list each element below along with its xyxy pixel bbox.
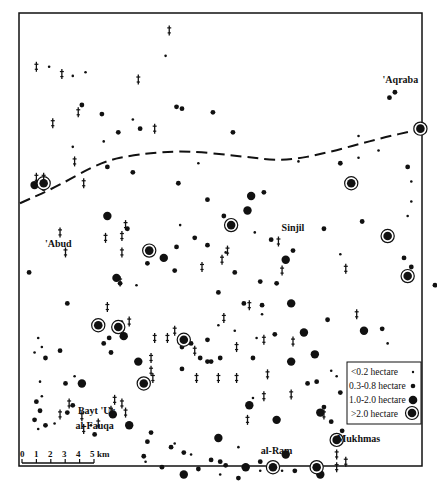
site-small <box>322 405 327 410</box>
scale-tick-label-3: 3 <box>62 449 67 459</box>
site-large <box>316 408 324 416</box>
site-tiny <box>179 224 182 227</box>
site-small <box>174 104 179 109</box>
site-ringed <box>114 323 123 332</box>
site-large <box>134 357 142 365</box>
site-tiny <box>217 324 220 327</box>
site-tiny <box>41 346 44 349</box>
site-small <box>145 439 150 444</box>
site-small <box>116 130 121 135</box>
site-tiny <box>386 342 389 345</box>
site-small <box>221 214 226 219</box>
site-tiny <box>41 395 44 398</box>
site-tiny <box>261 313 264 316</box>
legend-label-ringed: >2.0 hectare <box>351 409 398 419</box>
site-small <box>405 164 410 169</box>
site-small <box>232 270 237 275</box>
site-small <box>231 130 236 135</box>
site-tiny <box>53 422 56 425</box>
site-small <box>325 317 330 322</box>
place-label: 'Aqraba <box>383 74 419 85</box>
site-small <box>205 359 210 364</box>
site-tiny <box>37 337 40 340</box>
site-large <box>160 254 168 262</box>
site-tiny <box>357 135 360 138</box>
site-small <box>63 381 68 386</box>
site-large <box>311 350 319 358</box>
site-small <box>387 95 392 100</box>
site-small <box>209 458 214 463</box>
site-small <box>205 243 210 248</box>
site-small <box>192 235 197 240</box>
site-large <box>300 328 308 336</box>
site-tiny <box>84 71 87 74</box>
site-small <box>261 190 266 195</box>
site-small <box>338 161 343 166</box>
scale-tick-label-0: 0 <box>20 449 25 459</box>
site-tiny <box>335 375 338 378</box>
site-ringed <box>383 232 392 241</box>
site-tiny <box>71 146 74 149</box>
place-label: Mukhmas <box>337 433 380 444</box>
site-ringed <box>416 124 425 133</box>
site-small <box>172 268 177 273</box>
place-label: 'Abud <box>45 238 72 249</box>
site-large <box>360 326 368 334</box>
site-tiny <box>39 380 42 383</box>
site-small <box>149 430 154 435</box>
site-small <box>130 170 135 175</box>
site-small <box>43 356 48 361</box>
site-small <box>393 90 398 95</box>
site-tiny <box>102 140 105 143</box>
site-small <box>160 465 165 470</box>
site-tiny <box>410 200 413 203</box>
site-small <box>291 248 296 253</box>
site-small <box>241 301 246 306</box>
site-ringed <box>94 321 103 330</box>
site-small <box>409 265 414 270</box>
site-small <box>34 399 39 404</box>
site-large <box>243 206 251 214</box>
site-tiny <box>406 215 409 218</box>
site-large <box>247 192 255 200</box>
site-large <box>245 401 253 409</box>
site-tiny <box>237 446 240 449</box>
site-ringed <box>347 179 356 188</box>
legend-symbol-large-dot <box>409 396 418 405</box>
site-tiny <box>164 55 167 58</box>
scale-tick-label-5: 5 <box>90 449 95 459</box>
site-small <box>79 103 84 108</box>
site-small <box>43 423 48 428</box>
site-tiny <box>144 460 147 463</box>
site-small <box>58 348 63 353</box>
place-label: al-Fauqa <box>75 420 113 431</box>
site-small <box>402 255 407 260</box>
site-tiny <box>190 453 193 456</box>
site-ringed <box>139 379 148 388</box>
site-tiny <box>37 428 40 431</box>
site-small <box>180 106 185 111</box>
site-tiny <box>339 253 342 256</box>
site-small <box>109 350 114 355</box>
site-small <box>32 417 37 422</box>
site-small <box>338 390 343 395</box>
site-large <box>241 463 249 471</box>
site-small <box>65 410 70 415</box>
archaeological-site-map: 'AqrabaSinjil'AbudBayt 'Ural-Fauqaal-Ram… <box>0 0 437 481</box>
site-large <box>125 421 133 429</box>
legend-symbol-ringed-dot <box>408 409 417 418</box>
legend-symbol-tiny-dot <box>412 371 414 373</box>
site-large <box>180 470 188 478</box>
site-small <box>107 336 112 341</box>
site-small <box>205 197 210 202</box>
site-small <box>181 450 186 455</box>
site-ringed <box>227 221 236 230</box>
site-small <box>272 332 277 337</box>
site-small <box>360 219 365 224</box>
site-small <box>251 356 256 361</box>
scale-tick-label-1: 1 <box>34 449 39 459</box>
site-small <box>258 279 263 284</box>
site-tiny <box>48 65 51 68</box>
scale-tick-label-4: 4 <box>76 449 81 459</box>
legend-label-large: 1.0-2.0 hectare <box>349 395 406 405</box>
